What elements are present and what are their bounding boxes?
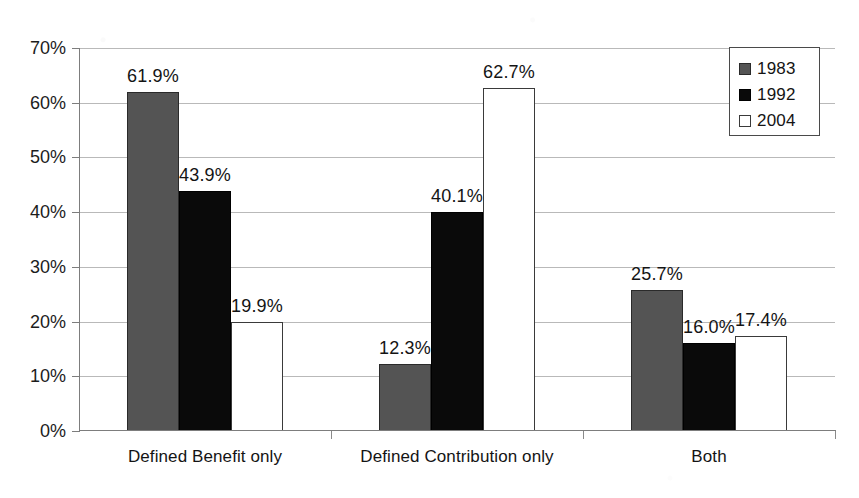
y-axis-label: 70%	[0, 38, 66, 59]
x-tick-end	[835, 431, 836, 439]
legend-label-2004: 2004	[757, 111, 796, 131]
y-tick	[72, 212, 80, 213]
bar-1983-3[interactable]	[631, 290, 683, 431]
y-axis-label: 50%	[0, 147, 66, 168]
bar-value-label: 16.0%	[683, 317, 735, 338]
legend-label-1983: 1983	[757, 59, 796, 79]
bar-value-label: 25.7%	[631, 264, 683, 285]
bar-2004-3[interactable]	[735, 336, 787, 431]
legend-swatch-2004	[739, 115, 751, 127]
category-label: Defined Benefit only	[128, 447, 282, 467]
gridline	[79, 103, 835, 104]
y-axis-label: 30%	[0, 256, 66, 277]
legend-label-1992: 1992	[757, 85, 796, 105]
x-tick	[583, 431, 584, 439]
bar-1992-1[interactable]	[179, 191, 231, 431]
category-label: Defined Contribution only	[360, 447, 553, 467]
bar-value-label: 19.9%	[231, 296, 283, 317]
bar-2004-1[interactable]	[231, 322, 283, 431]
bar-value-label: 12.3%	[379, 338, 431, 359]
y-tick	[72, 267, 80, 268]
y-tick	[72, 48, 80, 49]
bar-1992-3[interactable]	[683, 343, 735, 431]
y-tick	[72, 322, 80, 323]
y-axis-label: 60%	[0, 92, 66, 113]
x-tick	[331, 431, 332, 439]
bar-1983-2[interactable]	[379, 364, 431, 431]
bar-1983-1[interactable]	[127, 92, 179, 431]
legend-swatch-1983	[739, 63, 751, 75]
legend-swatch-1992	[739, 89, 751, 101]
category-label: Both	[691, 447, 726, 467]
legend-item-1992[interactable]: 1992	[739, 82, 819, 108]
bar-1992-2[interactable]	[431, 212, 483, 431]
bar-chart: 61.9%43.9%19.9%12.3%40.1%62.7%25.7%16.0%…	[0, 0, 859, 498]
plot-area: 61.9%43.9%19.9%12.3%40.1%62.7%25.7%16.0%…	[79, 48, 835, 431]
y-tick	[72, 103, 80, 104]
bar-value-label: 43.9%	[179, 165, 231, 186]
bar-2004-2[interactable]	[483, 88, 535, 431]
y-axis-line	[79, 48, 80, 431]
bar-value-label: 62.7%	[483, 62, 535, 83]
bar-value-label: 40.1%	[431, 186, 483, 207]
gridline	[79, 157, 835, 158]
gridline	[79, 48, 835, 49]
y-axis-label: 0%	[0, 421, 66, 442]
legend-item-1983[interactable]: 1983	[739, 56, 819, 82]
x-axis-line	[79, 430, 836, 431]
y-tick	[72, 376, 80, 377]
y-tick	[72, 157, 80, 158]
y-tick	[72, 431, 80, 432]
legend-item-2004[interactable]: 2004	[739, 108, 819, 134]
y-axis-label: 20%	[0, 311, 66, 332]
bar-value-label: 61.9%	[127, 66, 179, 87]
y-axis-label: 10%	[0, 366, 66, 387]
legend: 1983 1992 2004	[729, 47, 820, 136]
y-axis-label: 40%	[0, 202, 66, 223]
bar-value-label: 17.4%	[735, 310, 787, 331]
